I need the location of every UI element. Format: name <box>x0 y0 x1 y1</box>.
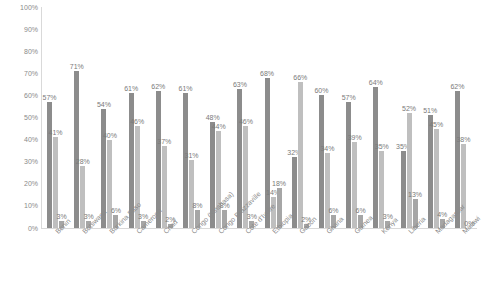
bar-value-label: 62% <box>448 83 466 90</box>
bar-value-label: 31% <box>183 152 201 159</box>
bar <box>107 140 112 228</box>
bar-value-label: 46% <box>128 118 146 125</box>
bar-value-label: 57% <box>340 94 358 101</box>
bar-value-label: 51% <box>421 107 439 114</box>
y-axis-tick-label: 70% <box>24 70 38 77</box>
bar-value-label: 64% <box>367 79 385 86</box>
bar <box>216 131 221 228</box>
bar-value-label: 62% <box>149 83 167 90</box>
y-axis: 100%90%80%70%60%50%40%30%20%10%0% <box>8 0 38 232</box>
bar <box>47 102 52 228</box>
bar-value-label: 6% <box>107 207 125 214</box>
bar-group: 54%40%6% <box>96 7 123 228</box>
bar <box>373 87 378 228</box>
y-axis-tick-label: 60% <box>24 92 38 99</box>
bar-value-label: 6% <box>324 207 342 214</box>
y-axis-tick-label: 30% <box>24 158 38 165</box>
bar-group: 35%52%13% <box>395 7 422 228</box>
bar <box>401 151 406 228</box>
bar <box>298 82 303 228</box>
bar <box>461 144 466 228</box>
bar-value-label: 52% <box>400 105 418 112</box>
bar <box>428 115 433 228</box>
bar-value-label: 8% <box>189 202 207 209</box>
bar-value-label: 68% <box>258 70 276 77</box>
bar <box>74 71 79 228</box>
bar <box>319 95 324 228</box>
y-axis-tick-label: 90% <box>24 26 38 33</box>
bar-value-label: 61% <box>122 85 140 92</box>
bar-value-label: 54% <box>95 101 113 108</box>
y-axis-tick-label: 50% <box>24 114 38 121</box>
y-axis-tick-label: 80% <box>24 48 38 55</box>
bar-group: 60%34%6% <box>314 7 341 228</box>
bar-value-label: 13% <box>406 191 424 198</box>
bar-value-label: 71% <box>68 63 86 70</box>
bar <box>189 160 194 229</box>
bar <box>183 93 188 228</box>
bar-value-label: 44% <box>210 123 228 130</box>
bar-value-label: 39% <box>346 134 364 141</box>
bar-value-label: 60% <box>312 87 330 94</box>
bar-value-label: 40% <box>101 132 119 139</box>
bar-group: 62%38%0% <box>450 7 477 228</box>
bar-group: 57%41%3% <box>42 7 69 228</box>
bar-group: 68%14%18% <box>260 7 287 228</box>
bar-value-label: 45% <box>427 121 445 128</box>
bar-group: 64%35%3% <box>368 7 395 228</box>
bar-value-label: 18% <box>270 180 288 187</box>
bar-value-label: 66% <box>291 74 309 81</box>
bar-value-label: 38% <box>454 136 472 143</box>
bar <box>346 102 351 228</box>
bar-group: 61%46%3% <box>124 7 151 228</box>
bar-group: 32%66%2% <box>287 7 314 228</box>
bar-group: 57%39%6% <box>341 7 368 228</box>
y-axis-tick-label: 0% <box>28 225 38 232</box>
bar-value-label: 6% <box>352 207 370 214</box>
y-axis-tick-label: 100% <box>20 4 38 11</box>
bar-group: 61%31%8% <box>178 7 205 228</box>
y-axis-tick-label: 40% <box>24 136 38 143</box>
bar <box>352 142 357 228</box>
bar-value-label: 48% <box>204 114 222 121</box>
bar-group: 62%37%2% <box>151 7 178 228</box>
bar-chart: 100%90%80%70%60%50%40%30%20%10%0% 57%41%… <box>0 0 485 300</box>
bar-value-label: 57% <box>41 94 59 101</box>
bar-value-label: 46% <box>237 118 255 125</box>
bar-value-label: 37% <box>155 138 173 145</box>
x-axis-labels: BeninBotswanaBurkina FasoCameroonChadCon… <box>42 230 477 300</box>
bar-group: 71%28%3% <box>69 7 96 228</box>
bar <box>325 153 330 228</box>
bar-group: 51%45%4% <box>423 7 450 228</box>
bar-value-label: 28% <box>74 158 92 165</box>
bar-value-label: 35% <box>373 143 391 150</box>
bar-value-label: 61% <box>177 85 195 92</box>
y-axis-tick-label: 20% <box>24 180 38 187</box>
bar-value-label: 41% <box>47 129 65 136</box>
y-axis-tick-label: 10% <box>24 202 38 209</box>
bar-value-label: 34% <box>318 145 336 152</box>
bar <box>407 113 412 228</box>
bar-value-label: 63% <box>231 81 249 88</box>
